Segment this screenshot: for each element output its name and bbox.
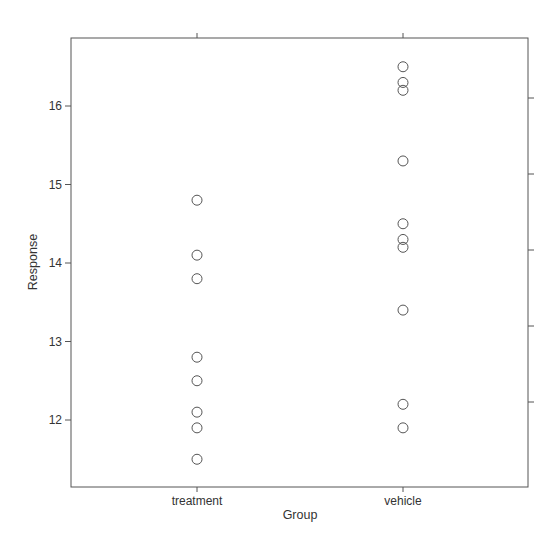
data-point-vehicle (398, 305, 408, 315)
data-point-treatment (192, 376, 202, 386)
y-tick-label: 13 (49, 335, 63, 349)
y-axis-right-ticks (528, 98, 534, 402)
data-point-vehicle (398, 423, 408, 433)
data-point-treatment (192, 195, 202, 205)
data-point-vehicle (398, 219, 408, 229)
data-points (192, 62, 408, 465)
plot-frame (71, 38, 528, 487)
y-tick-label: 15 (49, 178, 63, 192)
data-point-vehicle (398, 234, 408, 244)
x-tick-label: vehicle (384, 494, 422, 508)
y-axis: 1213141516 (49, 99, 71, 427)
y-axis-title: Response (26, 234, 40, 290)
data-point-vehicle (398, 399, 408, 409)
data-point-vehicle (398, 62, 408, 72)
scatter-chart: 1213141516 treatmentvehicle Group Respon… (0, 0, 553, 545)
data-point-vehicle (398, 242, 408, 252)
y-tick-label: 14 (49, 256, 63, 270)
data-point-vehicle (398, 77, 408, 87)
data-point-treatment (192, 407, 202, 417)
x-tick-label: treatment (172, 494, 223, 508)
data-point-vehicle (398, 85, 408, 95)
data-point-treatment (192, 454, 202, 464)
y-tick-label: 12 (49, 413, 63, 427)
data-point-vehicle (398, 156, 408, 166)
x-axis-title: Group (283, 508, 318, 522)
data-point-treatment (192, 352, 202, 362)
y-tick-label: 16 (49, 99, 63, 113)
data-point-treatment (192, 274, 202, 284)
data-point-treatment (192, 250, 202, 260)
data-point-treatment (192, 423, 202, 433)
x-axis: treatmentvehicle (172, 33, 422, 508)
